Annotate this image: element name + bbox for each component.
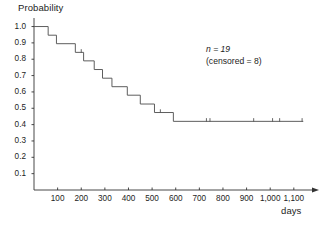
axis-ticks-group xyxy=(32,27,294,190)
x-axis-arrow-icon xyxy=(312,187,319,192)
step-line xyxy=(34,27,303,122)
axes-group xyxy=(34,18,319,193)
plot-area xyxy=(0,0,322,230)
survival-curve xyxy=(34,27,303,122)
survival-chart: Probability days n = 19 (censored = 8) 0… xyxy=(0,0,322,230)
censor-marks-group xyxy=(81,49,302,122)
